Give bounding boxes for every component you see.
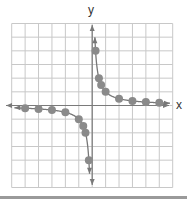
data-point [81,129,89,137]
data-point [79,122,87,130]
data-point [102,88,110,96]
data-point [35,105,43,113]
data-point [21,104,29,112]
data-point [95,74,103,82]
bottom-divider [0,196,187,199]
data-point [97,81,105,89]
data-point [61,108,69,116]
data-point [142,98,150,106]
data-point [48,106,56,114]
data-point [115,95,123,103]
data-point [155,99,163,107]
x-axis-label: x [176,99,182,111]
data-point [92,47,100,55]
data-point [128,97,136,105]
data-point [85,156,93,164]
data-point [75,115,83,123]
y-axis-label: y [88,4,94,16]
hyperbola-chart [0,0,187,204]
